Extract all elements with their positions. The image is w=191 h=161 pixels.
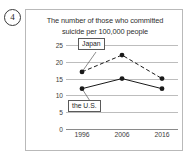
plot-area: 0510152025 199620062016 Japan the U.S. xyxy=(66,45,178,129)
series-line-japan xyxy=(82,55,162,79)
question-number-badge: 4 xyxy=(4,9,21,26)
data-point-the-u-s--2006 xyxy=(120,76,125,81)
y-tick-label-15: 15 xyxy=(56,75,63,82)
data-point-japan-1996 xyxy=(80,69,85,74)
chart-title: The number of those who committed suicid… xyxy=(32,16,178,37)
data-point-japan-2016 xyxy=(160,76,165,81)
x-tick-label-2006: 2006 xyxy=(114,131,129,138)
series-lines xyxy=(66,45,178,129)
chart-title-line-1: The number of those who committed xyxy=(32,16,178,27)
x-tick-label-1996: 1996 xyxy=(74,131,89,138)
data-point-the-u-s--2016 xyxy=(160,86,165,91)
y-tick-label-10: 10 xyxy=(56,92,63,99)
data-point-the-u-s--1996 xyxy=(80,86,85,91)
x-tick-label-2016: 2016 xyxy=(154,131,169,138)
chart-figure-container: 4 The number of those who committed suic… xyxy=(0,0,191,161)
y-tick-label-0: 0 xyxy=(59,126,63,133)
y-tick-label-25: 25 xyxy=(56,42,63,49)
chart-frame: The number of those who committed suicid… xyxy=(25,9,183,151)
chart-title-line-2: suicide per 100,000 people xyxy=(32,27,178,38)
y-tick-label-5: 5 xyxy=(59,109,63,116)
data-point-japan-2006 xyxy=(120,53,125,58)
gridline-0 xyxy=(66,129,178,130)
y-tick-label-20: 20 xyxy=(56,58,63,65)
callout-label-japan: Japan xyxy=(78,38,105,50)
callout-label-the-us: the U.S. xyxy=(68,100,101,112)
